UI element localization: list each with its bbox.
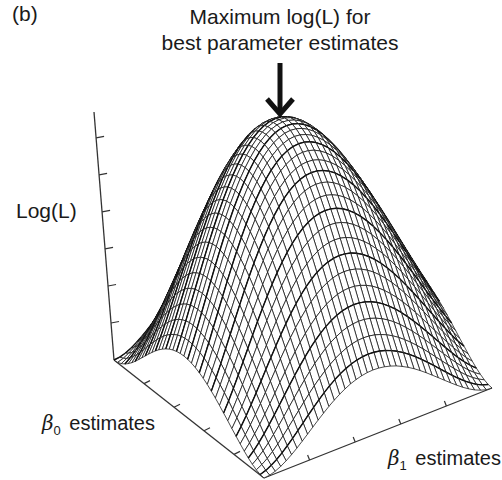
y-axis-label: β1 estimates [388,446,501,470]
down-arrow-icon [267,63,293,114]
beta-symbol: β [42,411,54,435]
beta-symbol: β [388,446,400,470]
subscript: 0 [54,423,61,438]
subscript: 1 [400,458,407,473]
z-axis-label: Log(L) [16,199,77,223]
x-axis-label: β0 estimates [42,411,155,435]
y-axis-text: estimates [415,447,501,469]
x-axis-text: estimates [69,412,155,434]
likelihood-surface [114,117,492,478]
surface-plot [0,0,502,480]
